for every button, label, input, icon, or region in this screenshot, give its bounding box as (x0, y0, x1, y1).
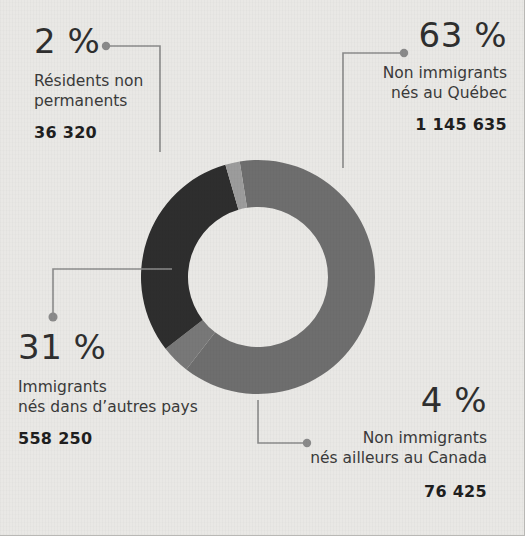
callout-description: Résidents non permanents (34, 72, 143, 112)
callout-percent: 31 % (18, 330, 198, 366)
callout-description-line2: permanents (34, 92, 143, 112)
callout-description-line1: Non immigrants (357, 64, 507, 84)
callout-count: 76 425 (255, 482, 487, 501)
callout-non-immigrants-canada: 4 % Non immigrants nés ailleurs au Canad… (255, 383, 487, 501)
callout-count: 1 145 635 (357, 115, 507, 134)
callout-percent: 2 % (34, 24, 143, 60)
callout-description-line2: nés ailleurs au Canada (255, 449, 487, 469)
callout-non-immigrants-quebec: 63 % Non immigrants nés au Québec 1 145 … (357, 18, 507, 134)
callout-immigrants-autres-pays: 31 % Immigrants nés dans d’autres pays 5… (18, 330, 198, 448)
callout-description-line2: nés au Québec (357, 84, 507, 104)
callout-description-line1: Immigrants (18, 378, 198, 398)
callout-percent: 63 % (357, 18, 507, 54)
callout-description: Non immigrants nés au Québec (357, 64, 507, 104)
callout-percent: 4 % (255, 383, 487, 419)
callout-description: Immigrants nés dans d’autres pays (18, 378, 198, 418)
callout-description-line1: Résidents non (34, 72, 143, 92)
callout-count: 558 250 (18, 429, 198, 448)
callout-count: 36 320 (34, 123, 143, 142)
callout-residents-non-permanents: 2 % Résidents non permanents 36 320 (34, 24, 143, 142)
callout-description: Non immigrants nés ailleurs au Canada (255, 429, 487, 469)
donut-slice-immigrants (141, 165, 238, 349)
callout-description-line2: nés dans d’autres pays (18, 398, 198, 418)
infographic-donut-chart: 2 % Résidents non permanents 36 320 63 %… (0, 0, 525, 536)
callout-description-line1: Non immigrants (255, 429, 487, 449)
leader-dot-immigrants (49, 313, 58, 322)
